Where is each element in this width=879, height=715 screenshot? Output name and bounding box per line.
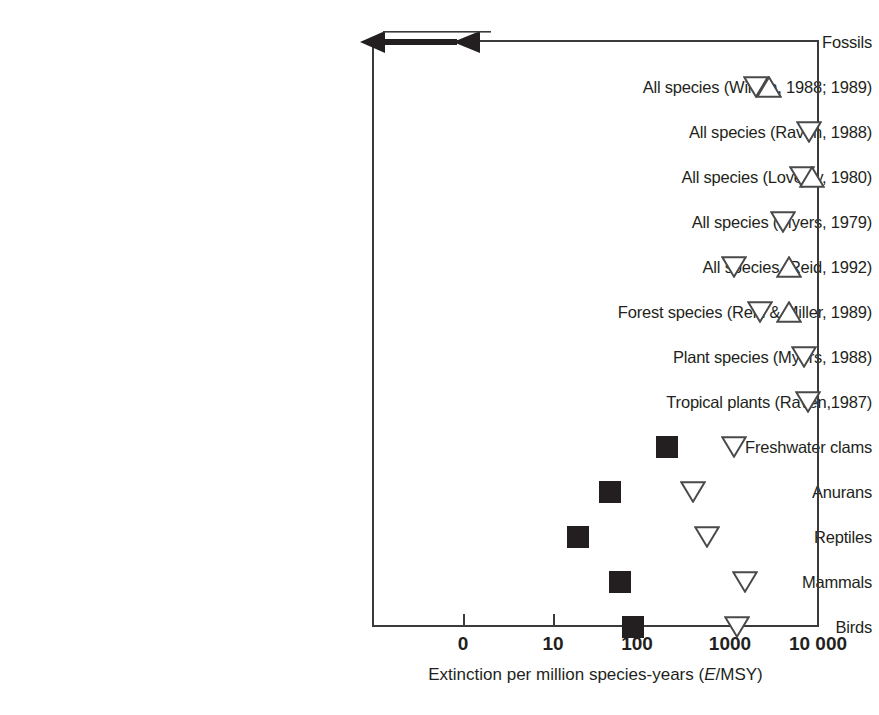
x-tick-mark bbox=[553, 614, 555, 625]
data-point-tri-down bbox=[732, 571, 758, 593]
data-point-tri-up bbox=[776, 256, 802, 278]
x-tick-label: 1000 bbox=[709, 634, 751, 653]
data-point-tri-down bbox=[770, 211, 796, 233]
data-point-square bbox=[599, 481, 621, 503]
plot-area bbox=[372, 40, 819, 627]
data-point-square bbox=[567, 526, 589, 548]
data-point-tri-down bbox=[796, 121, 822, 143]
data-point-square bbox=[609, 571, 631, 593]
data-point-tri-down bbox=[721, 436, 747, 458]
x-tick-label: 0 bbox=[458, 634, 469, 653]
axis-title-italic-e: E bbox=[704, 665, 715, 684]
data-point-tri-down bbox=[795, 391, 821, 413]
data-point-square bbox=[656, 436, 678, 458]
data-point-tri-up bbox=[756, 76, 782, 98]
data-point-tri-down bbox=[680, 481, 706, 503]
axis-line-bottom bbox=[372, 625, 819, 627]
axis-title-pre: Extinction per million species-years ( bbox=[428, 665, 704, 684]
fossils-range-arrow bbox=[355, 28, 495, 56]
axis-title-post: /MSY) bbox=[716, 665, 763, 684]
data-point-tri-down bbox=[791, 346, 817, 368]
axis-line-left bbox=[372, 40, 374, 627]
data-point-tri-down bbox=[694, 526, 720, 548]
x-tick-label: 100 bbox=[621, 634, 653, 653]
x-tick-mark bbox=[463, 614, 465, 625]
x-tick-label: 10 000 bbox=[789, 634, 847, 653]
data-point-tri-down bbox=[747, 301, 773, 323]
data-point-tri-down bbox=[721, 256, 747, 278]
x-tick-label: 10 bbox=[542, 634, 563, 653]
extinction-rate-chart: FossilsAll species (Wilson, 1988; 1989)A… bbox=[0, 0, 879, 715]
x-axis-title: Extinction per million species-years (E/… bbox=[372, 666, 819, 683]
data-point-tri-up bbox=[799, 166, 825, 188]
data-point-tri-up bbox=[776, 301, 802, 323]
